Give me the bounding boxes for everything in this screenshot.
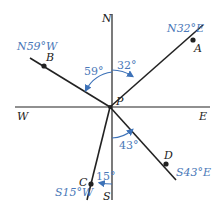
angle-arc-D	[112, 130, 132, 138]
point-D-marker	[163, 161, 168, 166]
label-east: E	[198, 110, 207, 123]
label-south: S	[103, 190, 111, 203]
point-B-marker	[41, 63, 46, 68]
label-point-A: A	[193, 42, 202, 55]
bearing-label-C: S15°W	[55, 186, 95, 199]
label-west: W	[17, 110, 30, 123]
origin-P-marker	[108, 105, 112, 109]
angle-label-D: 43°	[119, 139, 139, 152]
diagram-canvas: N S W E P A B C D N32°E N59°W S15°W S43°…	[0, 0, 220, 210]
angle-label-A: 32°	[117, 59, 137, 72]
label-point-D: D	[163, 149, 173, 162]
angle-label-B: 59°	[84, 65, 104, 78]
bearing-label-B: N59°W	[16, 40, 59, 53]
label-origin-P: P	[115, 95, 124, 108]
bearings-diagram: N S W E P A B C D N32°E N59°W S15°W S43°…	[0, 0, 220, 210]
label-north: N	[101, 12, 112, 25]
bearing-label-D: S43°E	[176, 166, 211, 179]
angle-arc-C	[100, 183, 112, 184]
angle-label-C: 15°	[96, 170, 116, 183]
bearing-label-A: N32°E	[166, 22, 204, 35]
